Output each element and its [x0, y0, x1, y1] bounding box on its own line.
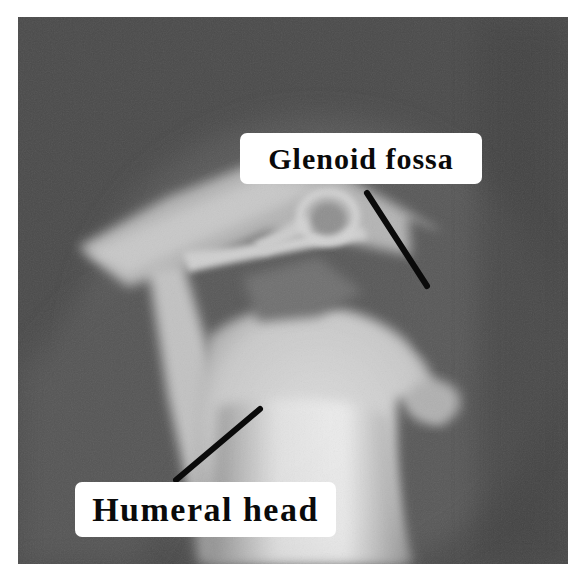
humeral-head-label: Humeral head	[75, 482, 336, 537]
humeral-head-label-text: Humeral head	[92, 491, 319, 529]
glenoid-fossa-label: Glenoid fossa	[240, 133, 482, 184]
glenoid-fossa-label-text: Glenoid fossa	[268, 142, 454, 176]
